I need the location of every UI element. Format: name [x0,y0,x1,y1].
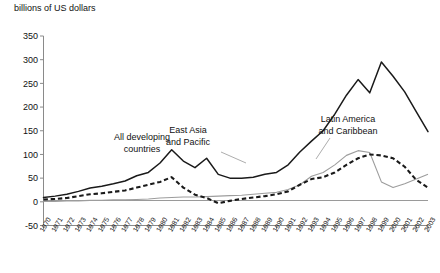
y-axis-tick-labels: 350300250200150100500-50 [23,31,38,231]
y-axis-tick-label: 200 [23,102,38,112]
y-axis-tick-label: 150 [23,126,38,136]
annotation-latin-america-and-caribbean-line1: Latin America [321,114,376,124]
annotation-all-developing-countries-line1: All developing [114,132,170,142]
line-chart-plot: 350300250200150100500-50 197019711972197… [0,0,440,273]
annotation-east-asia-and-pacific-line2: and Pacific [166,137,211,147]
leader-line-latin-america [316,138,330,159]
annotation-all-developing-countries-line2: countries [124,144,161,154]
annotation-latin-america-and-caribbean-line2: and Caribbean [318,126,377,136]
x-axis-tick-label: 2003 [423,216,437,233]
y-axis-tick-label: -50 [25,221,38,231]
y-axis-tick-label: 0 [33,197,38,207]
x-axis-tick-labels: 1970197119721973197419751976197719781979… [38,216,436,233]
chart-container: billions of US dollars 35030025020015010… [0,0,440,273]
leader-line-east-asia [221,152,246,163]
y-axis-tick-label: 50 [28,173,38,183]
y-axis-tick-label: 300 [23,55,38,65]
y-axis-tick-label: 250 [23,79,38,89]
annotation-east-asia-and-pacific-line1: East Asia [169,125,207,135]
y-axis-tick-label: 100 [23,150,38,160]
y-axis-tick-label: 350 [23,31,38,41]
